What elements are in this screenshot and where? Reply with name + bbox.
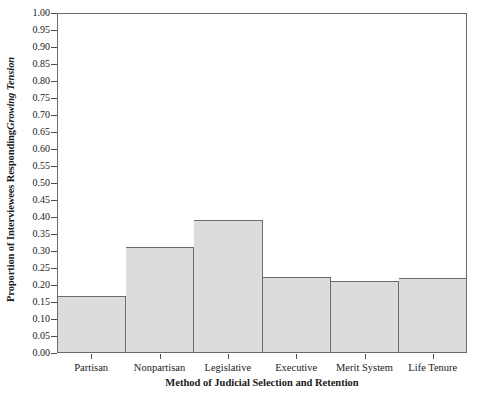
y-axis-tick-label: 0.35 xyxy=(16,229,50,239)
y-axis-tick-label: 1.00 xyxy=(16,8,50,18)
y-axis-tick-label: 0.05 xyxy=(16,331,50,341)
y-axis-tick-label: 0.40 xyxy=(16,212,50,222)
y-axis-tick-mark xyxy=(51,47,57,48)
x-axis-tick-mark xyxy=(228,354,229,359)
y-axis-tick-label: 0.75 xyxy=(16,93,50,103)
y-axis-tick-mark xyxy=(51,64,57,65)
bar-chart-figure: Proportion of Interviewees Responding Gr… xyxy=(0,0,477,397)
y-axis-tick-label: 0.95 xyxy=(16,25,50,35)
y-axis-tick-label: 0.50 xyxy=(16,178,50,188)
y-axis-tick-label: 0.00 xyxy=(16,348,50,358)
y-axis-tick-label: 0.85 xyxy=(16,59,50,69)
y-axis-tick-mark xyxy=(51,234,57,235)
y-axis-tick-mark xyxy=(51,353,57,354)
y-axis-tick-label: 0.70 xyxy=(16,110,50,120)
plot-area xyxy=(57,13,467,353)
y-axis-tick-label: 0.90 xyxy=(16,42,50,52)
y-axis-tick-label: 0.20 xyxy=(16,280,50,290)
y-axis-tick-mark xyxy=(51,200,57,201)
x-axis-tick-label: Executive xyxy=(262,361,330,375)
y-axis-tick-mark xyxy=(51,115,57,116)
y-axis-tick-mark xyxy=(51,13,57,14)
y-axis-tick-label: 0.30 xyxy=(16,246,50,256)
x-axis-tick-label: Legislative xyxy=(194,361,262,375)
y-axis-tick-mark xyxy=(51,302,57,303)
y-axis-tick-mark xyxy=(51,98,57,99)
y-axis-tick-label: 0.45 xyxy=(16,195,50,205)
y-axis-tick-labels: 1.000.950.900.850.800.750.700.650.600.55… xyxy=(16,13,50,353)
x-axis-tick-label: Life Tenure xyxy=(399,361,467,375)
y-axis-tick-mark xyxy=(51,183,57,184)
y-axis-tick-label: 0.15 xyxy=(16,297,50,307)
bar xyxy=(263,277,331,352)
y-axis-tick-label: 0.65 xyxy=(16,127,50,137)
y-axis-tick-label: 0.25 xyxy=(16,263,50,273)
y-axis-tick-mark xyxy=(51,30,57,31)
x-axis-title: Method of Judicial Selection and Retenti… xyxy=(57,377,467,388)
y-axis-tick-label: 0.60 xyxy=(16,144,50,154)
x-axis-tick-mark xyxy=(296,354,297,359)
y-axis-tick-mark xyxy=(51,251,57,252)
x-axis-tick-label: Nonpartisan xyxy=(125,361,193,375)
y-axis-tick-mark xyxy=(51,336,57,337)
y-axis-tick-label: 0.10 xyxy=(16,314,50,324)
y-axis-tick-label: 0.55 xyxy=(16,161,50,171)
y-axis-tick-mark xyxy=(51,149,57,150)
y-axis-tick-mark xyxy=(51,132,57,133)
bar xyxy=(331,281,399,352)
bar xyxy=(194,220,262,352)
x-axis-tick-mark xyxy=(433,354,434,359)
y-axis-tick-label: 0.80 xyxy=(16,76,50,86)
x-axis-tick-mark xyxy=(160,354,161,359)
y-axis-tick-mark xyxy=(51,217,57,218)
bar xyxy=(399,278,466,352)
y-axis-title-italic: Growing Tension xyxy=(5,57,16,130)
bar xyxy=(58,296,126,352)
x-axis-tick-label: Merit System xyxy=(330,361,398,375)
bar-series xyxy=(58,14,466,352)
x-axis-tick-labels: PartisanNonpartisanLegislativeExecutiveM… xyxy=(57,361,467,375)
y-axis-tick-mark xyxy=(51,285,57,286)
y-axis-title-prefix: Proportion of Interviewees Responding xyxy=(5,130,16,302)
x-axis-tick-mark xyxy=(365,354,366,359)
x-axis-tick-mark xyxy=(91,354,92,359)
y-axis-tick-mark xyxy=(51,268,57,269)
y-axis-tick-mark xyxy=(51,319,57,320)
x-axis-tick-label: Partisan xyxy=(57,361,125,375)
bar xyxy=(126,247,194,352)
y-axis-tick-mark xyxy=(51,166,57,167)
y-axis-tick-mark xyxy=(51,81,57,82)
